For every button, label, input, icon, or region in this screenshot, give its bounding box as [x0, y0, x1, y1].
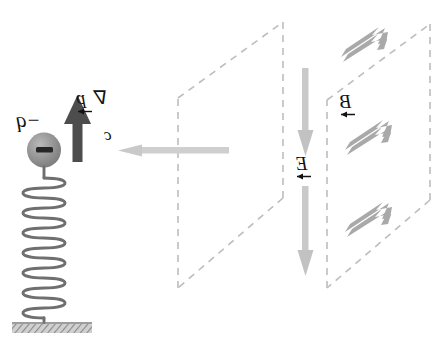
- charge-label: −q: [16, 110, 41, 131]
- nabla-icon: ∇: [96, 88, 109, 107]
- figure-canvas: [0, 0, 436, 346]
- ground-base: [12, 323, 92, 333]
- spring-coil: [23, 167, 65, 324]
- magnetic-field-arrow-top: [341, 27, 388, 62]
- wavefront-plane-right: [327, 24, 430, 288]
- magnetic-field-arrow-bottom: [345, 202, 392, 237]
- magnetic-field-arrow-middle: [345, 120, 392, 155]
- dipole-vector-arrow-icon: [75, 107, 95, 116]
- em-wave-figure: −q ∇ p c E B: [0, 0, 436, 346]
- magnetic-field-label: B: [340, 92, 352, 111]
- dipole-moment-label-group: p: [76, 88, 86, 107]
- electric-field-arrow-upper: [298, 68, 314, 156]
- electric-field-label: E: [296, 154, 308, 173]
- electric-field-arrow-lower: [298, 186, 314, 276]
- propagation-direction-arrow: [118, 145, 229, 157]
- wavefront-plane-left: [178, 22, 283, 288]
- electric-field-label-group: E: [296, 154, 308, 173]
- magnetic-field-vector-arrow-icon: [338, 110, 358, 119]
- magnetic-field-label-group: B: [340, 92, 352, 111]
- electric-field-vector-arrow-icon: [294, 172, 314, 181]
- charge-sphere: [27, 133, 61, 168]
- speed-of-light-label: c: [104, 126, 112, 143]
- dipole-moment-label: p: [76, 88, 86, 107]
